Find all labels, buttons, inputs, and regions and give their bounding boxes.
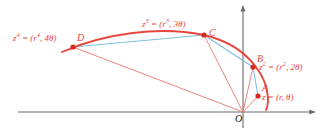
label-z4-tail: , 4θ) <box>40 33 56 43</box>
logarithmic-spiral <box>62 31 268 110</box>
point-markers-group <box>70 32 260 98</box>
point-marker-a <box>255 93 260 98</box>
label-z1-rest: = (r, θ) <box>266 92 294 102</box>
label-z2-tail: , 2θ) <box>286 62 302 72</box>
label-z3-mid: = (r <box>149 19 166 29</box>
label-z2-mid: = (r <box>266 62 283 72</box>
complex-power-spiral-figure: A B C D O z = (r, θ) z2 = (r2, 2θ) z3 = … <box>0 0 327 132</box>
label-z2: z2 = (r2, 2θ) <box>259 63 303 72</box>
label-z3-tail: , 3θ) <box>169 19 185 29</box>
spiral-curve-group <box>62 31 268 110</box>
point-label-c: C <box>209 28 216 38</box>
origin-label: O <box>235 114 242 124</box>
label-z3: z3 = (r3, 3θ) <box>142 20 186 29</box>
radial-lines-group <box>73 35 258 112</box>
radial-line-to-d <box>73 47 243 112</box>
chord-a-b <box>253 67 258 96</box>
point-marker-c <box>201 32 206 37</box>
radial-line-to-a <box>243 96 258 112</box>
label-z1: z = (r, θ) <box>262 93 294 102</box>
point-label-d: D <box>77 33 84 43</box>
radial-line-to-b <box>243 67 253 112</box>
point-marker-d <box>70 44 75 49</box>
radial-line-to-c <box>204 35 243 112</box>
point-marker-b <box>250 64 255 69</box>
label-z4: z4 = (r4, 4θ) <box>13 34 57 43</box>
label-z4-mid: = (r <box>20 33 37 43</box>
chord-b-c <box>204 35 253 67</box>
